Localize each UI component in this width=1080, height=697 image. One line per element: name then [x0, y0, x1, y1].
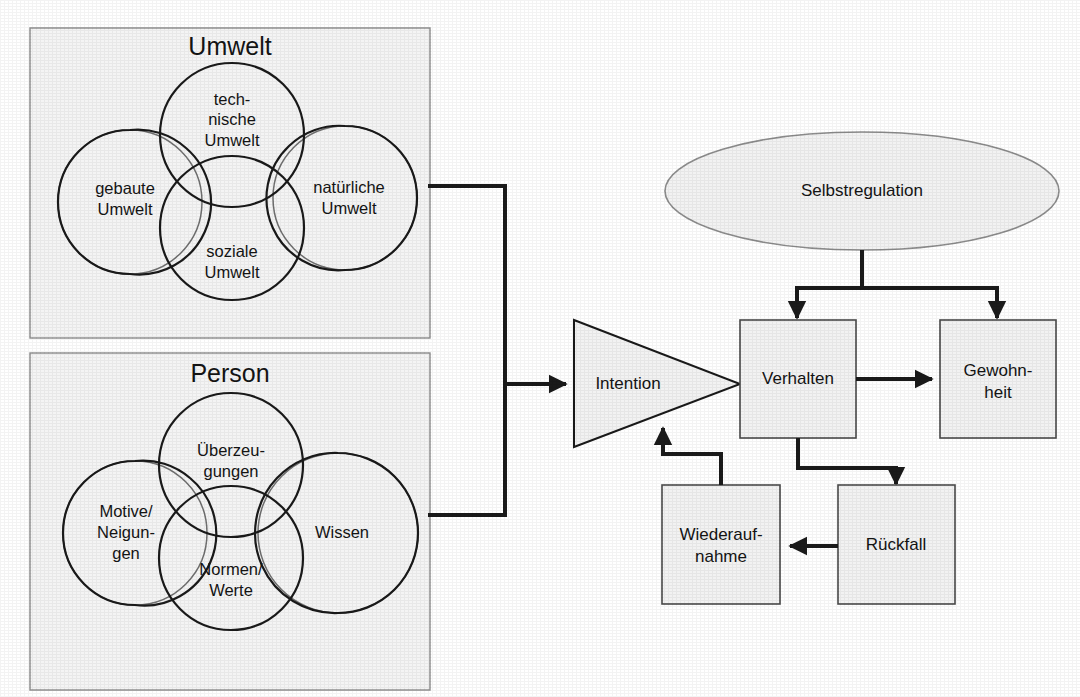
svg-text:gungen: gungen: [203, 462, 258, 480]
rueckfall-label: Rückfall: [866, 535, 926, 554]
circle-natuerliche-umwelt: [266, 126, 417, 271]
node-gewohnheit: Gewohn- heit: [940, 320, 1056, 438]
node-rueckfall: Rückfall: [838, 485, 955, 604]
diagram-canvas: Umwelt tech- nische Umwelt gebaute Umwel…: [0, 0, 1080, 697]
wiederaufnahme-box: [662, 485, 780, 604]
svg-text:natürliche: natürliche: [313, 178, 385, 196]
edge-selbstregulation-split: [797, 250, 997, 318]
svg-text:gen: gen: [112, 544, 140, 562]
svg-text:Motive/: Motive/: [99, 502, 153, 520]
edge-wiederaufnahme-to-intention: [663, 428, 721, 485]
wiederaufnahme-label-line2: nahme: [695, 547, 747, 566]
group-umwelt: Umwelt tech- nische Umwelt gebaute Umwel…: [30, 28, 430, 338]
svg-text:Werte: Werte: [209, 581, 253, 599]
selbstregulation-label: Selbstregulation: [801, 181, 923, 200]
gewohnheit-label-line1: Gewohn-: [964, 361, 1033, 380]
intention-label: Intention: [595, 374, 660, 393]
label-wissen: Wissen: [315, 523, 369, 541]
svg-text:Umwelt: Umwelt: [321, 199, 376, 217]
svg-text:Normen/: Normen/: [199, 560, 263, 578]
verhalten-label: Verhalten: [762, 369, 834, 388]
edge-umwelt-person-to-intention: [428, 186, 566, 515]
svg-text:nische: nische: [208, 110, 256, 128]
edge-verhalten-to-rueckfall: [798, 438, 896, 484]
node-intention: Intention: [574, 320, 740, 447]
svg-text:Umwelt: Umwelt: [97, 200, 152, 218]
svg-text:Umwelt: Umwelt: [204, 131, 259, 149]
node-wiederaufnahme: Wiederauf- nahme: [662, 485, 780, 604]
gewohnheit-label-line2: heit: [984, 383, 1012, 402]
svg-text:soziale: soziale: [206, 242, 257, 260]
group-person: Person Überzeu- gungen Motive/ Neigun- g…: [30, 353, 430, 690]
svg-text:gebaute: gebaute: [95, 179, 155, 197]
wiederaufnahme-label-line1: Wiederauf-: [679, 525, 762, 544]
svg-text:Überzeu-: Überzeu-: [197, 441, 265, 459]
svg-text:tech-: tech-: [214, 90, 251, 108]
diagram-svg: Umwelt tech- nische Umwelt gebaute Umwel…: [0, 0, 1080, 697]
svg-text:Neigun-: Neigun-: [97, 523, 155, 541]
svg-text:Umwelt: Umwelt: [204, 263, 259, 281]
node-verhalten: Verhalten: [740, 320, 856, 438]
node-selbstregulation: Selbstregulation: [665, 132, 1059, 250]
umwelt-title: Umwelt: [188, 32, 271, 60]
svg-text:Wissen: Wissen: [315, 523, 369, 541]
person-title: Person: [190, 359, 269, 387]
